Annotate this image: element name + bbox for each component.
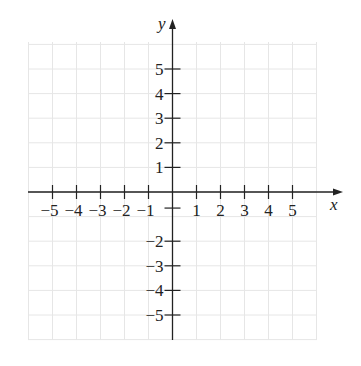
y-tick-label: 4	[155, 85, 164, 104]
y-tick-label: 2	[155, 134, 164, 153]
x-tick-label: −5	[40, 201, 58, 220]
y-tick-label: −4	[145, 281, 164, 300]
y-axis-label: y	[156, 14, 166, 33]
x-tick-label: 5	[288, 201, 297, 220]
y-tick-label: 5	[155, 60, 164, 79]
x-tick-label: −3	[88, 201, 106, 220]
y-tick-label: 3	[155, 109, 164, 128]
x-tick-label: −2	[112, 201, 130, 220]
y-tick-label: −3	[145, 257, 163, 276]
y-tick-label: 1	[155, 158, 164, 177]
x-axis-label: x	[329, 195, 338, 214]
x-tick-label: 3	[240, 201, 249, 220]
x-tick-label: −4	[64, 201, 83, 220]
x-tick-label: −1	[136, 201, 154, 220]
x-tick-label: 2	[216, 201, 225, 220]
x-ticks: −5−4−3−2−112345	[40, 185, 296, 220]
y-tick-label: −5	[145, 306, 163, 325]
y-tick-label: −2	[145, 232, 163, 251]
axes: x y	[28, 14, 343, 340]
y-axis-arrow-icon	[169, 19, 176, 29]
x-tick-label: 4	[264, 201, 273, 220]
coordinate-plane: x y −5−4−3−2−112345 54321−2−3−4−5	[0, 0, 361, 366]
x-tick-label: 1	[192, 201, 201, 220]
